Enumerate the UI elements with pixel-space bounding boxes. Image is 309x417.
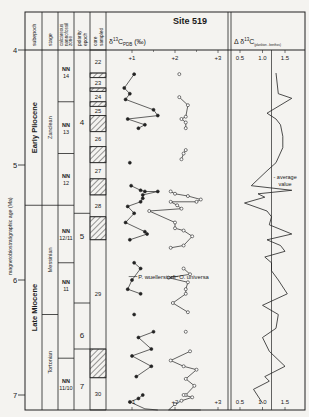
universa-point [195, 200, 198, 203]
nannofossil-zone-label: NN [62, 279, 70, 285]
universa-point [148, 210, 151, 213]
wuellerstorfi-point [152, 108, 155, 111]
universa-point [186, 195, 189, 198]
universa-point [199, 198, 202, 201]
universa-point [184, 288, 187, 291]
universa-point [182, 244, 185, 247]
universa-point [184, 115, 187, 118]
wuellerstorfi-point [152, 330, 155, 333]
polarity-epoch-label: 5 [80, 232, 85, 241]
wuellerstorfi-point [135, 375, 138, 378]
panel2-x-tick-bottom: 0.5 [236, 399, 245, 405]
wuellerstorfi-point [150, 365, 153, 368]
panel2-x-tick-top: 0.5 [236, 55, 245, 61]
panel1-x-tick-top: +2 [172, 55, 180, 61]
universa-point [184, 149, 187, 152]
y-tick-4: 4 [13, 46, 17, 55]
universa-point [191, 235, 194, 238]
nannofossil-zone-number: 12 [63, 180, 69, 186]
wuellerstorfi-point [141, 197, 144, 200]
delta-delta13c-panel: 0.50.51.01.01.51.5- averagevalue [236, 50, 297, 410]
nannofossil-zone-label: NN [62, 66, 70, 72]
panel1-x-tick-top: +1 [129, 55, 137, 61]
wuellerstorfi-point [139, 189, 142, 192]
nannofossil-zone-label: NN [62, 378, 70, 384]
wuellerstorfi-point [126, 205, 129, 208]
wuellerstorfi-point [137, 336, 140, 339]
wuellerstorfi-point [156, 190, 159, 193]
universa-point [182, 267, 185, 270]
nannofossil-zone-number: 12/11 [59, 235, 72, 241]
core-label: 26 [95, 136, 101, 142]
wuellerstorfi-point [131, 354, 134, 357]
wuellerstorfi-point [123, 86, 126, 89]
universa-point [184, 330, 187, 333]
universa-point [182, 152, 185, 155]
universa-point [186, 281, 189, 284]
header-stage: stage [47, 33, 53, 46]
universa-point [169, 246, 172, 249]
universa-point [174, 403, 177, 406]
subepoch-label: Early Pliocene [30, 102, 39, 153]
header-nannofossil-3: zone [68, 36, 73, 46]
wuellerstorfi-point [128, 161, 131, 164]
universa-point [180, 399, 183, 402]
universa-point [189, 350, 192, 353]
wuellerstorfi-point [133, 313, 136, 316]
universa-point [184, 377, 187, 380]
wuellerstorfi-point [133, 261, 136, 264]
wuellerstorfi-point [126, 118, 129, 121]
wuellerstorfi-point [137, 127, 140, 130]
wuellerstorfi-point [150, 348, 153, 351]
universa-point [184, 292, 187, 295]
universa-point [174, 192, 177, 195]
label-p-wuellerstorfi: P. wuellerstorfi [138, 274, 175, 280]
universa-point [184, 127, 187, 130]
core-label: 25 [95, 108, 101, 114]
wuellerstorfi-point [128, 400, 131, 403]
wuellerstorfi-point [126, 288, 129, 291]
core-label: 29 [95, 291, 101, 297]
subepoch-label: Late Miocene [30, 284, 39, 332]
wuellerstorfi-point [139, 267, 142, 270]
universa-point [178, 73, 181, 76]
y-axis: 4 5 6 7 magnetobiostratigraphic age (Ma) [7, 46, 25, 400]
wuellerstorfi-point [133, 212, 136, 215]
universa-point [169, 200, 172, 203]
core-gap-hatch [90, 217, 106, 240]
universa-point [180, 118, 183, 121]
universa-point [169, 359, 172, 362]
universa-point [178, 96, 181, 99]
y-tick-5: 5 [13, 161, 17, 170]
core-label: 24 [95, 94, 102, 100]
wuellerstorfi-point [139, 292, 142, 295]
site-519-figure: subepoch stage calcareous nannofossil zo… [0, 0, 309, 417]
polarity-epoch-label: 7 [80, 382, 85, 391]
stage-label: Zanclean [47, 116, 53, 139]
average-value-label-2: value [279, 181, 292, 187]
stage-label: Messinian [47, 247, 53, 272]
universa-point [180, 207, 183, 210]
nannofossil-zone-number: 14 [63, 73, 69, 79]
universa-point [191, 396, 194, 399]
core-label: 23 [95, 80, 101, 86]
nannofossil-zone-number: 13 [63, 129, 69, 135]
universa-line [149, 192, 201, 248]
core-gap-hatch [90, 179, 106, 195]
stage-label: Tortonian [47, 351, 53, 374]
wuellerstorfi-point [130, 184, 133, 187]
wuellerstorfi-point [124, 221, 127, 224]
core-label: 30 [95, 391, 101, 397]
universa-point [171, 302, 174, 305]
nannofossil-zone-label: NN [62, 122, 70, 128]
wuellerstorfi-point [124, 98, 127, 101]
universa-point [186, 104, 189, 107]
universa-point [169, 190, 172, 193]
wuellerstorfi-point [146, 233, 149, 236]
panel2-x-tick-bottom: 1.5 [281, 399, 290, 405]
core-gap-hatch [90, 349, 106, 378]
panel2-x-tick-bottom: 1.0 [258, 399, 267, 405]
wuellerstorfi-point [143, 123, 146, 126]
core-gap-hatch [90, 73, 106, 78]
average-value-label: - average [274, 174, 297, 180]
